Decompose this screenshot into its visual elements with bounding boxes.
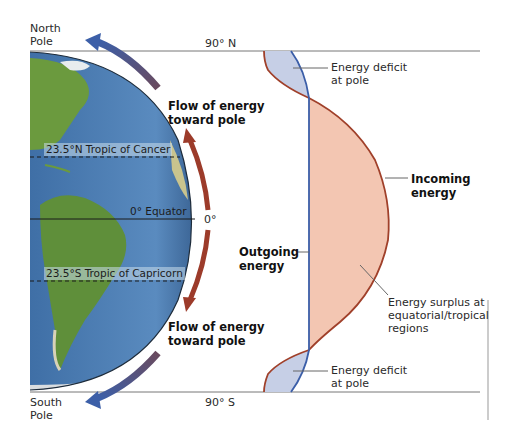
south-pole-label: SouthPole xyxy=(30,396,62,422)
red-arrowhead-south-icon xyxy=(183,297,196,312)
deficit-north-label: Energy deficitat pole xyxy=(331,61,407,87)
tropic-cancer-label: 23.5°N Tropic of Cancer xyxy=(44,143,172,156)
energy-balance-diagram xyxy=(0,0,507,443)
surplus-label: Energy surplus atequatorial/tropicalregi… xyxy=(388,296,489,335)
equator-label: 0° Equator xyxy=(128,205,189,218)
equator-degree-label: 0° xyxy=(204,213,217,226)
latitude-90n-label: 90° N xyxy=(205,37,236,50)
red-arrowhead-north-icon xyxy=(183,128,196,143)
red-arc-south xyxy=(190,230,208,300)
latitude-90s-label: 90° S xyxy=(205,396,235,409)
north-pole-label: NorthPole xyxy=(30,22,61,48)
energy-surplus-region xyxy=(309,98,389,350)
incoming-energy-label: Incomingenergy xyxy=(411,172,471,200)
south-arrowhead-icon xyxy=(85,391,101,409)
north-deficit-region xyxy=(264,51,309,98)
north-arrowhead-icon xyxy=(85,33,101,51)
deficit-south-label: Energy deficitat pole xyxy=(331,364,407,390)
flow-south-label: Flow of energytoward pole xyxy=(168,320,264,348)
flow-north-label: Flow of energytoward pole xyxy=(168,99,264,127)
outgoing-energy-curve xyxy=(291,51,309,392)
tropic-capricorn-label: 23.5°S Tropic of Capricorn xyxy=(44,267,185,280)
outgoing-energy-label: Outgoingenergy xyxy=(239,245,299,273)
red-arc-north xyxy=(190,140,208,210)
